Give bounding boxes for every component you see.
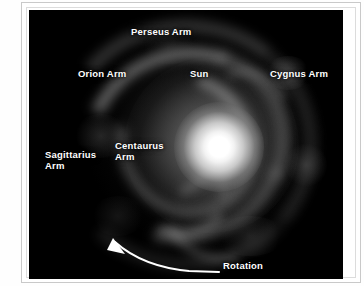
galaxy-image: Perseus Arm Orion Arm Sun Cygnus Arm Sag… (29, 10, 343, 279)
label-sagittarius-arm: Sagittarius Arm (45, 149, 96, 171)
rotation-arrow-icon (29, 10, 343, 279)
figure-page: KNACK NIGHT SKY Per (0, 0, 364, 286)
label-rotation: Rotation (223, 260, 263, 271)
label-orion-arm: Orion Arm (78, 68, 126, 79)
label-centaurus-arm: Centaurus Arm (115, 140, 164, 162)
label-sun: Sun (190, 68, 209, 79)
label-perseus-arm: Perseus Arm (131, 26, 191, 37)
label-cygnus-arm: Cygnus Arm (270, 68, 328, 79)
